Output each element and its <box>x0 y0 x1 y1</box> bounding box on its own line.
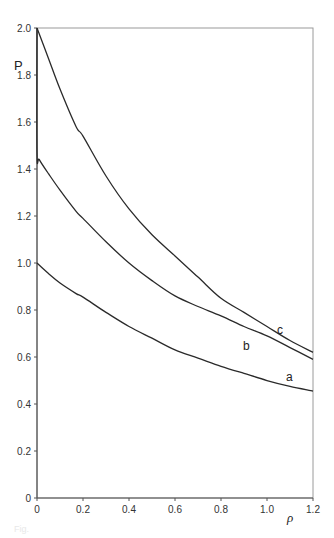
y-tick-label: 0.2 <box>17 446 31 457</box>
y-tick-label: 1.4 <box>17 164 31 175</box>
y-tick-label: 0 <box>25 493 31 504</box>
y-tick-label: 1.0 <box>17 258 31 269</box>
x-tick-label: 0.4 <box>122 504 136 515</box>
curve-label-a: a <box>286 370 293 384</box>
plot-frame <box>37 28 313 498</box>
y-tick-label: 0.8 <box>17 305 31 316</box>
curves <box>37 28 313 391</box>
x-tick-label: 1.2 <box>306 504 320 515</box>
curve-c <box>37 28 313 352</box>
x-axis-ticks: 00.20.40.60.81.01.2 <box>34 498 320 515</box>
curve-b <box>37 28 313 359</box>
x-tick-label: 0.8 <box>214 504 228 515</box>
y-tick-label: 2.0 <box>17 23 31 34</box>
x-tick-label: 0.6 <box>168 504 182 515</box>
curve-label-b: b <box>243 339 250 353</box>
y-axis-ticks: 00.20.40.60.81.01.21.41.61.82.0 <box>17 23 37 504</box>
y-tick-label: 0.4 <box>17 399 31 410</box>
x-tick-label: 0.2 <box>76 504 90 515</box>
y-tick-label: 1.6 <box>17 117 31 128</box>
x-axis-label: ρ <box>286 510 293 525</box>
x-tick-label: 1.0 <box>260 504 274 515</box>
y-tick-label: 1.2 <box>17 211 31 222</box>
figure-caption: Fig. <box>14 524 29 534</box>
x-tick-label: 0 <box>34 504 40 515</box>
y-tick-label: 0.6 <box>17 352 31 363</box>
curve-a <box>37 263 313 391</box>
chart-svg: 00.20.40.60.81.01.21.41.61.82.0 00.20.40… <box>0 0 334 538</box>
curve-label-c: c <box>277 323 283 337</box>
plot-border <box>37 28 313 498</box>
y-axis-label: P <box>14 58 23 73</box>
